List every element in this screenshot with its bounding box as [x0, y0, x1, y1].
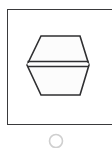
circle-marker-layer[interactable] — [0, 0, 112, 148]
circle-marker-icon[interactable] — [50, 135, 63, 148]
figure-canvas — [0, 0, 112, 148]
